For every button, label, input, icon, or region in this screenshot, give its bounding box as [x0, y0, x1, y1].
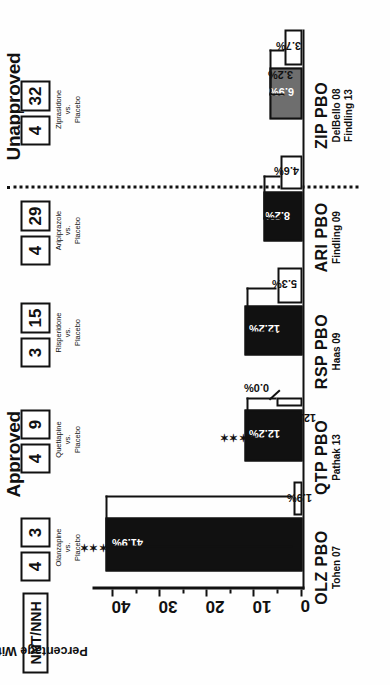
category-code-ari: ARI PBO [312, 193, 330, 281]
vs-qtp: vs. [62, 403, 71, 475]
bar-value-ari-placebo: 4.6% [254, 164, 318, 176]
nnt-nnh-pair-ari: 4 29 [20, 200, 50, 265]
category-label-rsp: RSP PBO Haas 09 [312, 309, 342, 393]
drug-caption-ari: Aripiprazole vs. Placebo [53, 189, 81, 271]
y-axis-line [92, 587, 304, 590]
category-label-olz: OLZ PBO Tohen 07 [312, 525, 342, 609]
category-citation-zip: DelBello 08 [330, 71, 342, 159]
nnh-value-rsp: 15 [20, 302, 50, 333]
drug-name-ari: Aripiprazole [53, 189, 62, 271]
nnt-value-qtp: 4 [20, 443, 50, 473]
y-tick-label-10: 10 [252, 595, 271, 615]
nnh-value-ari: 29 [20, 200, 50, 231]
comparator-rsp: Placebo [72, 293, 81, 371]
nnt-value-olz: 4 [20, 551, 50, 581]
difference-label-zip: 3.2% [255, 68, 305, 80]
bar-ari-placebo[interactable]: 4.6% [280, 155, 302, 189]
category-code-qtp: QTP PBO [312, 415, 330, 499]
y-tick-label-30: 30 [158, 595, 177, 615]
category-citation2-zip: Findling 13 [342, 71, 354, 159]
vs-ari: vs. [62, 189, 71, 271]
y-tick-0: 0 [300, 589, 302, 596]
comparator-ari: Placebo [72, 189, 81, 271]
nnt-nnh-pair-zip: 4 32 [20, 80, 50, 145]
rotated-figure-canvas: NNT/NNH Approved Unapproved 4 3 Olanzapi… [0, 0, 390, 685]
category-citation-ari: Findling 09 [330, 193, 342, 281]
drug-caption-zip: Ziprasidone vs. Placebo [53, 69, 81, 149]
comparator-qtp: Placebo [72, 403, 81, 475]
nnt-value-zip: 4 [20, 115, 50, 145]
bar-rsp-placebo[interactable]: 5.3% [277, 267, 302, 303]
drug-caption-qtp: Quetiapine vs. Placebo [53, 403, 81, 475]
drug-caption-rsp: Risperidone vs. Placebo [53, 293, 81, 371]
y-tick-minor-15 [229, 589, 231, 593]
category-code-rsp: RSP PBO [312, 309, 330, 393]
comparator-zip: Placebo [72, 69, 81, 149]
y-tick-minor-25 [182, 589, 184, 593]
category-citation-qtp: Pathak 13 [330, 415, 342, 499]
y-tick-minor-35 [135, 589, 137, 593]
y-tick-minor-5 [276, 589, 278, 593]
vs-rsp: vs. [62, 293, 71, 371]
category-label-zip: ZIP PBO DelBello 08 Findling 13 [312, 71, 353, 159]
drug-name-rsp: Risperidone [53, 293, 62, 371]
category-citation-rsp: Haas 09 [330, 309, 342, 393]
y-tick-40: 40 [111, 589, 113, 596]
bar-olz-placebo[interactable]: 1.9% [293, 481, 302, 515]
category-code-olz: OLZ PBO [312, 525, 330, 609]
category-citation-olz: Tohen 07 [330, 525, 342, 609]
category-label-qtp: QTP PBO Pathak 13 [312, 415, 342, 499]
nnt-nnh-legend-box: NNT/NNH [22, 592, 48, 673]
vs-zip: vs. [62, 69, 71, 149]
difference-label-ari: 3.6% [251, 192, 301, 204]
bar-value-qtp-placebo: 0.0% [230, 381, 282, 393]
nnt-nnh-pair-qtp: 4 9 [20, 409, 50, 473]
nnh-value-qtp: 9 [20, 409, 50, 439]
plot-area: 0 10 20 30 40 41.9% ✶✶✶✶ [92, 29, 304, 589]
difference-label-olz: 40.0% [186, 515, 234, 527]
category-code-zip: ZIP PBO [312, 71, 330, 159]
category-label-ari: ARI PBO Findling 09 [312, 193, 342, 281]
y-axis-title: Percentage With ≥7% Weight Gain [0, 643, 92, 657]
y-tick-label-20: 20 [205, 595, 224, 615]
nnt-nnh-pair-olz: 4 3 [20, 517, 50, 581]
y-tick-label-40: 40 [111, 595, 130, 615]
nnh-value-zip: 32 [20, 80, 50, 111]
nnt-value-ari: 4 [20, 235, 50, 265]
nnh-value-olz: 3 [20, 517, 50, 547]
drug-name-zip: Ziprasidone [53, 69, 62, 149]
nnt-nnh-pair-rsp: 3 15 [20, 302, 50, 367]
y-tick-30: 30 [158, 589, 160, 596]
difference-bracket-qtp [246, 397, 276, 439]
bar-value-zip-placebo: 3.7% [256, 39, 320, 51]
bar-qtp-placebo[interactable] [276, 397, 302, 406]
bar-zip-placebo[interactable]: 3.7% [284, 29, 302, 65]
nnt-value-rsp: 3 [20, 337, 50, 367]
y-tick-label-0: 0 [300, 595, 309, 615]
y-tick-10: 10 [252, 589, 254, 596]
difference-label-rsp: 6.9% [241, 304, 291, 316]
y-tick-20: 20 [205, 589, 207, 596]
figure-page: NNT/NNH Approved Unapproved 4 3 Olanzapi… [0, 0, 390, 685]
drug-name-qtp: Quetiapine [53, 403, 62, 475]
